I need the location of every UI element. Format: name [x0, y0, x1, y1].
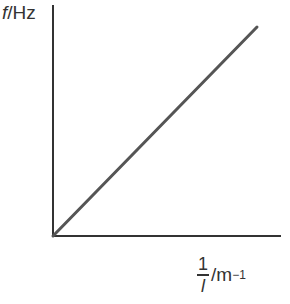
x-axis-denominator: l — [201, 277, 205, 295]
y-axis-label: f/Hz — [2, 2, 36, 24]
x-axis-fraction: 1 l — [196, 255, 210, 295]
x-axis-exponent: −1 — [232, 268, 246, 282]
x-axis-unit: /m — [211, 264, 232, 286]
x-axis-label: 1 l /m−1 — [196, 255, 246, 295]
chart-plot-area — [0, 0, 290, 304]
data-line — [53, 27, 257, 236]
chart: f/Hz 1 l /m−1 — [0, 0, 290, 304]
y-axis-unit: /Hz — [7, 2, 36, 23]
x-axis-numerator: 1 — [196, 255, 210, 273]
